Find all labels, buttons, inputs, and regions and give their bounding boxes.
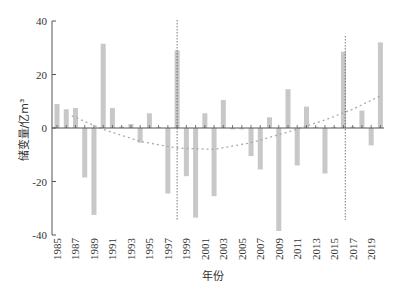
svg-text:2003: 2003 <box>217 238 229 261</box>
svg-text:1985: 1985 <box>51 238 63 261</box>
bars <box>55 42 383 231</box>
svg-text:0: 0 <box>42 122 48 134</box>
svg-text:40: 40 <box>36 15 48 27</box>
svg-text:-20: -20 <box>32 176 47 188</box>
svg-text:1997: 1997 <box>162 238 174 261</box>
x-axis-title: 年份 <box>202 269 224 283</box>
svg-text:1999: 1999 <box>180 238 192 261</box>
svg-text:20: 20 <box>36 69 48 81</box>
bar-2011 <box>295 128 300 165</box>
bar-2009 <box>276 128 281 231</box>
svg-text:2017: 2017 <box>347 238 359 261</box>
svg-text:2001: 2001 <box>199 238 211 260</box>
bar-2019 <box>369 128 374 145</box>
bar-1991 <box>110 108 115 128</box>
bar-2014 <box>322 128 327 173</box>
bar-2010 <box>286 89 291 128</box>
svg-text:1989: 1989 <box>88 238 100 261</box>
bar-2020 <box>378 42 383 128</box>
svg-text:2007: 2007 <box>254 238 266 261</box>
svg-text:2005: 2005 <box>236 238 248 261</box>
bar-1989 <box>91 128 96 215</box>
bar-2003 <box>221 100 226 128</box>
svg-text:1993: 1993 <box>125 238 137 261</box>
svg-text:2009: 2009 <box>273 238 285 261</box>
bar-2000 <box>193 128 198 218</box>
bar-1997 <box>165 128 170 194</box>
svg-text:2015: 2015 <box>328 238 340 261</box>
bar-2007 <box>258 128 263 169</box>
bar-1990 <box>101 44 106 128</box>
svg-text:-40: -40 <box>32 229 47 241</box>
bar-2002 <box>212 128 217 196</box>
svg-text:2019: 2019 <box>365 238 377 261</box>
svg-text:2011: 2011 <box>291 238 303 260</box>
y-axis-title: 储变量/亿m³ <box>17 99 31 162</box>
trend-curve <box>72 96 381 149</box>
svg-text:1987: 1987 <box>69 238 81 261</box>
bar-1985 <box>55 104 60 128</box>
bar-chart: 40200-20-40 1985198719891991199319951997… <box>0 0 398 297</box>
svg-text:1991: 1991 <box>106 238 118 260</box>
svg-text:2013: 2013 <box>310 238 322 261</box>
bar-1988 <box>82 128 87 177</box>
svg-text:1995: 1995 <box>143 238 155 261</box>
bar-1999 <box>184 128 189 176</box>
